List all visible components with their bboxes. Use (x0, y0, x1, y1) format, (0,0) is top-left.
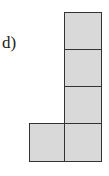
square-col0-row3 (29, 123, 66, 162)
square-col1-row1 (64, 49, 102, 87)
square-col1-row2 (64, 86, 102, 124)
figure-label: d) (2, 33, 16, 53)
square-col1-row3 (64, 123, 102, 162)
square-col1-row0 (64, 12, 102, 50)
